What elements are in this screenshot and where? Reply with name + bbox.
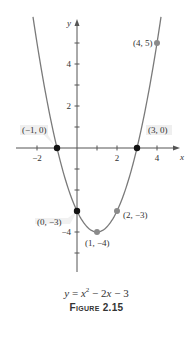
x-axis-arrow-icon — [173, 146, 180, 151]
eq-term-a: − 2 — [89, 287, 106, 299]
label-2-m3: (2, −3) — [123, 210, 148, 220]
y-tick-label-m4: −4 — [61, 227, 71, 237]
y-tick-label-2: 2 — [67, 101, 72, 111]
x-axis-name: x — [179, 152, 184, 162]
label-0-m3: (0, −3) — [37, 217, 62, 227]
label-1-m4: (1, −4) — [85, 238, 110, 248]
point-3-0 — [134, 145, 140, 151]
eq-term-b: − 3 — [111, 287, 128, 299]
figure-caption: Figure 2.15 — [0, 302, 193, 313]
equation-caption: y = x2 − 2x − 3 — [0, 286, 193, 299]
label-3-0: (3, 0) — [148, 125, 168, 135]
label-backgrounds — [20, 125, 172, 228]
y-axis-arrow-icon — [75, 19, 80, 26]
point-4-5 — [154, 40, 160, 46]
parabola-chart: −2 2 4 4 2 −4 x y (−1, 0) (3, 0) (0, −3)… — [0, 0, 193, 280]
point-m1-0 — [54, 145, 60, 151]
point-2-m3 — [114, 208, 120, 214]
x-tick-label-m2: −2 — [32, 153, 42, 163]
parabola-curve — [33, 17, 161, 232]
label-4-5: (4, 5) — [133, 38, 153, 48]
point-0-m3 — [74, 208, 80, 214]
label-m1-0: (−1, 0) — [22, 125, 47, 135]
eq-equals: = — [69, 287, 81, 299]
x-tick-label-4: 4 — [155, 153, 160, 163]
point-1-m4 — [94, 229, 100, 235]
y-axis-name: y — [66, 18, 71, 28]
y-tick-label-4: 4 — [67, 59, 72, 69]
x-tick-label-2: 2 — [115, 153, 120, 163]
